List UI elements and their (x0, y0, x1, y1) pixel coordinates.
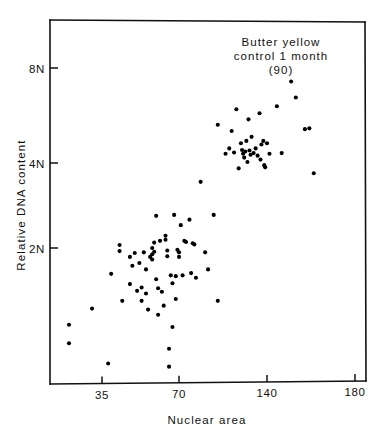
data-point (246, 117, 250, 121)
data-point (162, 304, 166, 308)
data-point (167, 365, 171, 369)
data-point (106, 361, 110, 365)
data-point (289, 79, 293, 83)
data-point (118, 249, 122, 253)
data-point (192, 242, 196, 246)
data-point (189, 271, 193, 275)
data-point (67, 341, 71, 345)
data-point (165, 254, 169, 258)
data-point (150, 246, 154, 250)
data-point (247, 149, 251, 153)
y-axis-ticks: 2N4N8N (29, 63, 58, 255)
data-point (263, 165, 267, 169)
data-point (144, 291, 148, 295)
data-point (212, 213, 216, 217)
data-point (137, 261, 141, 265)
data-point (216, 123, 220, 127)
data-point (303, 127, 307, 131)
annotation-line-2: control 1 month (234, 50, 328, 62)
data-point (184, 240, 188, 244)
y-tick-label: 4N (29, 158, 45, 170)
data-point (163, 234, 167, 238)
data-point (67, 323, 71, 327)
data-point (174, 297, 178, 301)
data-point (177, 250, 181, 254)
annotation-line-3: (90) (269, 64, 293, 76)
data-point (160, 290, 164, 294)
data-point (170, 281, 174, 285)
x-tick-label: 180 (345, 386, 366, 398)
data-point (199, 180, 203, 184)
data-point (224, 152, 228, 156)
data-point (156, 286, 160, 290)
top-axis-line (50, 20, 365, 22)
data-point (154, 214, 158, 218)
data-point (307, 126, 311, 130)
data-point (257, 111, 261, 115)
data-point (177, 255, 181, 259)
data-point (239, 141, 243, 145)
data-point (90, 307, 94, 311)
data-point (203, 250, 207, 254)
right-axis-line (365, 22, 366, 381)
data-point (265, 141, 269, 145)
data-point (167, 347, 171, 351)
data-point (140, 299, 144, 303)
data-point (150, 258, 154, 262)
data-point (130, 264, 134, 268)
y-tick-label: 2N (29, 243, 45, 255)
x-axis-title: Nuclear area (167, 414, 246, 426)
data-point (254, 146, 258, 150)
data-point (142, 250, 146, 254)
data-point (259, 142, 263, 146)
data-point (169, 273, 173, 277)
data-point (256, 154, 260, 158)
data-point (312, 171, 316, 175)
data-point (152, 241, 156, 245)
data-point (135, 289, 139, 293)
data-point (232, 150, 236, 154)
data-point (179, 223, 183, 227)
x-tick-label: 140 (257, 387, 278, 399)
data-points-layer (67, 79, 316, 368)
data-point (118, 243, 122, 247)
data-point (172, 213, 176, 217)
data-point (206, 267, 210, 271)
data-point (258, 158, 262, 162)
data-point (156, 313, 160, 317)
plot-canvas: 2N4N8N 3570140180 Nuclear area Relative … (0, 0, 385, 433)
data-point (243, 149, 247, 153)
x-axis-ticks: 3570140180 (95, 374, 366, 400)
data-point (267, 152, 271, 156)
data-point (181, 273, 185, 277)
data-point (227, 146, 231, 150)
y-axis-title: Relative DNA content (15, 139, 27, 270)
data-point (146, 308, 150, 312)
data-point (165, 248, 169, 252)
data-point (163, 238, 167, 242)
data-point (170, 325, 174, 329)
data-point (245, 160, 249, 164)
data-point (128, 282, 132, 286)
data-point (280, 151, 284, 155)
data-point (230, 129, 234, 133)
data-point (187, 218, 191, 222)
data-point (152, 250, 156, 254)
data-point (234, 107, 238, 111)
data-point (144, 267, 148, 271)
y-tick-label: 8N (29, 63, 45, 75)
scatter-plot-figure: 2N4N8N 3570140180 Nuclear area Relative … (0, 0, 385, 433)
data-point (120, 299, 124, 303)
data-point (158, 239, 162, 243)
data-point (294, 95, 298, 99)
data-point (216, 299, 220, 303)
x-tick-label: 70 (172, 388, 186, 400)
data-point (128, 255, 132, 259)
data-point (140, 285, 144, 289)
data-point (242, 156, 246, 160)
annotation-line-1: Butter yellow (242, 36, 321, 48)
data-point (194, 276, 198, 280)
bottom-axis-line (50, 381, 366, 384)
data-point (252, 151, 256, 155)
data-point (237, 166, 241, 170)
